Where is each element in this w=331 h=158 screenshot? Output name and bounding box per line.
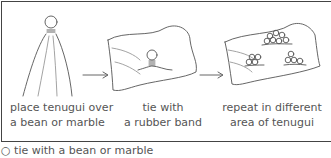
draped-tenugui-icon <box>23 16 72 96</box>
step-2-line-1: tie with <box>118 100 208 115</box>
step-3-line-1: repeat in different <box>222 100 322 115</box>
step-1-line-2: a bean or marble <box>10 115 104 130</box>
multi-tied-tenugui-icon <box>225 23 320 84</box>
step-3-line-2: area of tenugui <box>222 115 322 130</box>
step-2-label: tie with a rubber band <box>118 100 208 130</box>
step-2-line-2: a rubber band <box>118 115 208 130</box>
arrow-right-icon <box>200 72 223 78</box>
arrow-right-icon <box>83 72 108 78</box>
step-3-label: repeat in different area of tenugui <box>222 100 322 130</box>
step-1-label: place tenugui over a bean or marble <box>10 100 104 130</box>
tied-tenugui-icon <box>108 26 196 91</box>
step-1-line-1: place tenugui over <box>10 100 104 115</box>
figure-caption: ○ tie with a bean or marble <box>1 144 153 158</box>
